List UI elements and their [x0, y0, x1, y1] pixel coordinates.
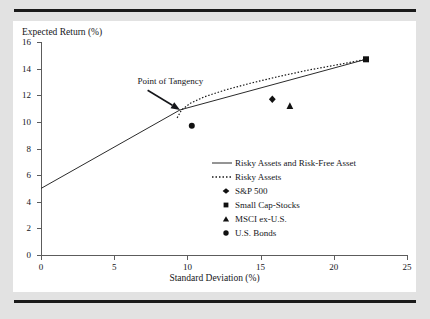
- series-risky-assets: [177, 59, 366, 118]
- y-tick-label: 14: [22, 64, 31, 74]
- x-axis-line: [41, 255, 407, 256]
- circle-marker-icon: [209, 229, 235, 237]
- chart-panel: Expected Return (%) Standard Deviation (…: [13, 21, 416, 292]
- legend-label: Risky Assets: [235, 172, 281, 182]
- x-tick: [187, 255, 188, 260]
- data-point-circle: [189, 123, 195, 129]
- x-tick: [261, 255, 262, 260]
- legend-item-msci: MSCI ex-U.S.: [209, 212, 356, 226]
- y-axis-title: Expected Return (%): [22, 27, 102, 37]
- legend-label: Risky Assets and Risk-Free Asset: [235, 158, 356, 168]
- x-tick-label: 0: [39, 262, 44, 272]
- top-divider-rule: [14, 9, 416, 12]
- x-tick-label: 20: [329, 262, 338, 272]
- x-tick: [334, 255, 335, 260]
- data-point-diamond: [269, 95, 276, 103]
- legend-label: U.S. Bonds: [235, 228, 276, 238]
- y-tick-label: 12: [22, 90, 31, 100]
- y-tick-label: 2: [27, 223, 32, 233]
- y-tick-label: 0: [27, 250, 32, 260]
- tangency-arrow: [148, 90, 180, 110]
- bottom-divider-rule: [14, 300, 416, 303]
- x-tick-label: 25: [403, 262, 412, 272]
- x-tick-label: 5: [112, 262, 117, 272]
- chart-legend: Risky Assets and Risk-Free Asset Risky A…: [209, 156, 356, 240]
- legend-item-risky-and-riskfree: Risky Assets and Risk-Free Asset: [209, 156, 356, 170]
- legend-item-sp500: S&P 500: [209, 184, 356, 198]
- y-tick-label: 10: [22, 117, 31, 127]
- legend-item-risky-assets: Risky Assets: [209, 170, 356, 184]
- triangle-marker-icon: [209, 215, 235, 223]
- legend-label: S&P 500: [235, 186, 267, 196]
- x-tick-label: 15: [256, 262, 265, 272]
- x-tick-label: 10: [183, 262, 192, 272]
- diamond-marker-icon: [209, 187, 235, 195]
- data-point-triangle: [286, 102, 293, 109]
- legend-label: Small Cap-Stocks: [235, 200, 300, 210]
- data-point-square: [363, 56, 369, 62]
- dotted-line-icon: [209, 173, 235, 181]
- y-tick-label: 6: [27, 170, 32, 180]
- x-tick: [41, 255, 42, 260]
- legend-item-us-bonds: U.S. Bonds: [209, 226, 356, 240]
- x-tick: [114, 255, 115, 260]
- solid-line-icon: [209, 159, 235, 167]
- point-of-tangency-label: Point of Tangency: [138, 76, 204, 86]
- legend-item-small-cap: Small Cap-Stocks: [209, 198, 356, 212]
- square-marker-icon: [209, 201, 235, 209]
- x-tick: [407, 255, 408, 260]
- x-axis-title: Standard Deviation (%): [13, 273, 416, 283]
- data-point-markers: [189, 56, 369, 129]
- legend-label: MSCI ex-U.S.: [235, 214, 287, 224]
- y-tick-label: 4: [27, 197, 32, 207]
- y-tick-label: 16: [22, 37, 31, 47]
- y-tick-label: 8: [27, 144, 32, 154]
